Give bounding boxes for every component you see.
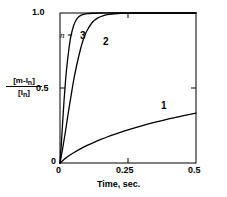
chart-figure: 1.0 0.5 0 0 0.25 0.5 Time, sec. [m-In] [… xyxy=(0,0,227,197)
curve-label-1: 1 xyxy=(161,100,167,111)
y-tick-label-top: 1.0 xyxy=(32,8,45,17)
n-annotation: n = xyxy=(60,30,73,40)
y-axis-title-denominator: [In] xyxy=(4,87,44,97)
x-tick-label-zero: 0 xyxy=(56,166,61,175)
curve-label-2: 2 xyxy=(103,36,109,47)
y-axis-title: [m-In] [In] xyxy=(4,76,44,97)
x-tick-label-mid: 0.25 xyxy=(116,166,134,175)
x-axis-title: Time, sec. xyxy=(97,180,140,189)
curve-label-3: 3 xyxy=(80,30,86,41)
y-axis-title-numerator: [m-In] xyxy=(4,76,44,86)
x-tick-label-max: 0.5 xyxy=(188,166,201,175)
